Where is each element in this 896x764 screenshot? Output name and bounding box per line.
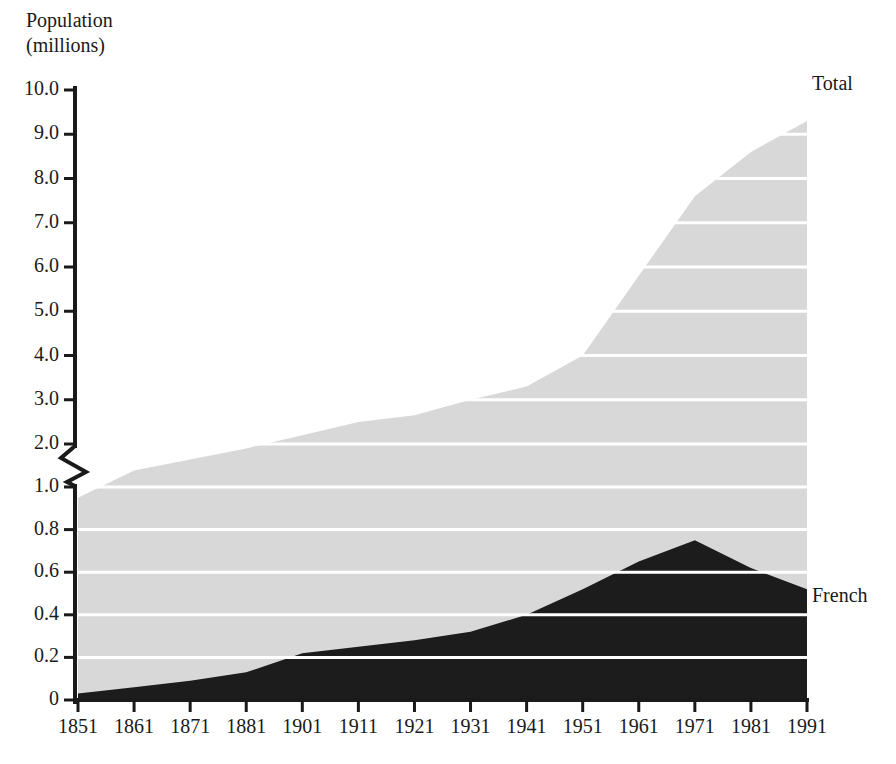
y-tick-label: 9.0 bbox=[34, 121, 59, 144]
y-tick-label: 7.0 bbox=[34, 210, 59, 233]
x-tick-label: 1851 bbox=[46, 715, 110, 738]
series-label-french: French bbox=[812, 584, 868, 607]
x-tick-label: 1961 bbox=[607, 715, 671, 738]
x-tick-label: 1871 bbox=[158, 715, 222, 738]
y-tick-label: 2.0 bbox=[34, 431, 59, 454]
y-tick-label: 0 bbox=[49, 687, 59, 710]
y-tick-label: 8.0 bbox=[34, 166, 59, 189]
axis-lines bbox=[0, 0, 896, 764]
y-tick-label: 1.0 bbox=[34, 474, 59, 497]
series-label-total: Total bbox=[812, 72, 853, 95]
population-chart: Population(millions) 10.09.08.07.06.05.0… bbox=[0, 0, 896, 764]
y-tick-label: 0.4 bbox=[34, 602, 59, 625]
x-tick-label: 1921 bbox=[382, 715, 446, 738]
x-tick-label: 1911 bbox=[326, 715, 390, 738]
x-tick-label: 1901 bbox=[270, 715, 334, 738]
y-tick-label: 5.0 bbox=[34, 298, 59, 321]
y-tick-label: 4.0 bbox=[34, 343, 59, 366]
y-tick-label: 0.2 bbox=[34, 644, 59, 667]
y-tick-label: 10.0 bbox=[24, 77, 59, 100]
x-tick-label: 1951 bbox=[551, 715, 615, 738]
y-tick-label: 0.8 bbox=[34, 517, 59, 540]
x-tick-label: 1861 bbox=[102, 715, 166, 738]
x-tick-label: 1931 bbox=[439, 715, 503, 738]
x-tick-label: 1881 bbox=[214, 715, 278, 738]
y-tick-label: 6.0 bbox=[34, 254, 59, 277]
x-tick-label: 1981 bbox=[719, 715, 783, 738]
y-tick-label: 0.6 bbox=[34, 559, 59, 582]
x-tick-label: 1941 bbox=[495, 715, 559, 738]
y-tick-label: 3.0 bbox=[34, 387, 59, 410]
x-tick-label: 1971 bbox=[663, 715, 727, 738]
x-tick-label: 1991 bbox=[775, 715, 839, 738]
